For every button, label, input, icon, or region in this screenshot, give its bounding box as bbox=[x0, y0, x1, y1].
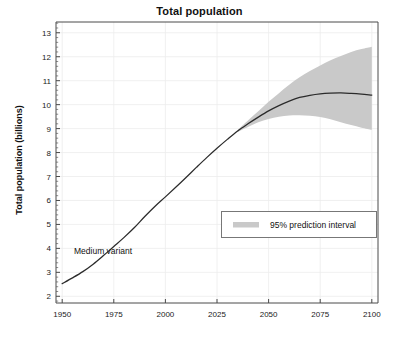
prediction-interval-band bbox=[238, 47, 372, 132]
y-tick-label: 10 bbox=[42, 101, 51, 110]
y-tick-label: 9 bbox=[47, 125, 52, 134]
chart-figure: Total population Total population (billi… bbox=[0, 0, 399, 338]
x-tick-label: 2025 bbox=[208, 310, 226, 319]
x-axis-ticks: 1950197520002025205020752100 bbox=[53, 299, 381, 319]
chart-legend[interactable]: 95% prediction interval bbox=[222, 212, 377, 238]
x-tick-label: 2000 bbox=[156, 310, 174, 319]
y-axis-ticks: 2345678910111213 bbox=[42, 23, 60, 301]
y-tick-label: 5 bbox=[47, 220, 52, 229]
plot-area: 2345678910111213 19501975200020252050207… bbox=[0, 0, 399, 338]
x-tick-label: 2050 bbox=[260, 310, 278, 319]
y-tick-label: 8 bbox=[47, 149, 52, 158]
x-tick-label: 2100 bbox=[363, 310, 381, 319]
x-tick-label: 1975 bbox=[105, 310, 123, 319]
y-tick-label: 11 bbox=[43, 77, 52, 86]
x-tick-label: 1950 bbox=[53, 310, 71, 319]
y-tick-label: 3 bbox=[47, 268, 52, 277]
y-tick-label: 4 bbox=[47, 244, 52, 253]
legend-swatch-prediction-interval bbox=[233, 222, 259, 228]
y-tick-label: 2 bbox=[47, 292, 52, 301]
annotation-medium-variant: Medium variant bbox=[74, 246, 133, 256]
y-tick-label: 6 bbox=[47, 196, 52, 205]
y-tick-label: 13 bbox=[42, 29, 51, 38]
y-tick-label: 7 bbox=[47, 173, 52, 182]
legend-label-prediction-interval: 95% prediction interval bbox=[270, 220, 356, 230]
x-tick-label: 2075 bbox=[311, 310, 329, 319]
y-tick-label: 12 bbox=[42, 53, 51, 62]
